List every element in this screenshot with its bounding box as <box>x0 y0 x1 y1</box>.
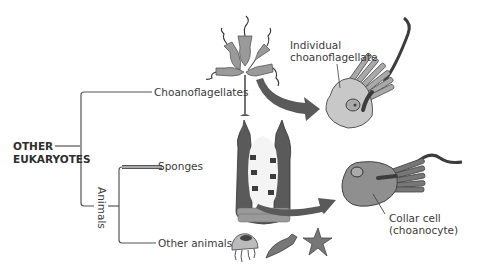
other-animals-label: Other animals <box>158 237 232 249</box>
jellyfish-icon <box>232 234 258 262</box>
callout-line2: choanoflagellate <box>290 51 377 63</box>
choanoflagellates-label: Choanoflagellates <box>154 86 248 98</box>
tree-lines <box>55 92 162 243</box>
arrow-to-individual-icon <box>256 78 320 121</box>
root-label-line1: OTHER <box>13 140 91 153</box>
collar-cell-icon <box>342 155 462 214</box>
callout-line1: Collar cell <box>389 212 458 224</box>
callout-line2: (choanocyte) <box>389 224 458 236</box>
choanoflagellate-colony-icon <box>206 16 279 116</box>
starfish-icon <box>303 228 332 256</box>
individual-choanoflagellate-callout: Individual choanoflagellate <box>290 39 377 63</box>
sponges-label: Sponges <box>158 160 203 172</box>
root-label-line2: EUKARYOTES <box>13 153 91 166</box>
individual-choanoflagellate-icon <box>326 18 409 128</box>
flatworm-icon <box>266 234 297 258</box>
collar-cell-callout: Collar cell (choanocyte) <box>389 212 458 236</box>
callout-line1: Individual <box>290 39 377 51</box>
animals-label: Animals <box>96 187 108 229</box>
root-label: OTHER EUKARYOTES <box>13 140 91 166</box>
